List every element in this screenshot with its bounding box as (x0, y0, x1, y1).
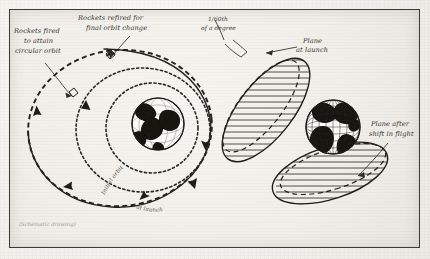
left-orbit-diagram (20, 36, 219, 215)
label-plane-at-launch-line1: Plane (302, 37, 322, 45)
label-plane-after-shift-line1: Plane after (370, 120, 410, 128)
label-rockets-fired-line2: to attain (24, 37, 53, 45)
transfer-orbit-path (20, 41, 219, 215)
label-plane-after-shift-line2: shift in flight (369, 130, 414, 138)
label-rockets-fired-line1: Rockets fired (13, 27, 60, 35)
diagram-artwork: Rockets fired to attain circular orbit R… (0, 0, 430, 259)
label-rockets-refired-line1: Rockets refired for (77, 14, 144, 22)
label-rockets-refired: Rockets refired for final orbit change (77, 14, 147, 32)
label-degree-line2: of a degree (201, 25, 236, 32)
earth-globe-right (306, 100, 360, 158)
figure-scan: Rockets fired to attain circular orbit R… (0, 0, 430, 259)
label-rockets-fired-line3: circular orbit (15, 47, 61, 55)
label-rockets-refired-line2: final orbit change (85, 24, 147, 32)
lead-arrow-plane-at-launch (266, 50, 273, 56)
lead-line-plane-after-shift (358, 143, 388, 176)
label-orbit-curve-2: at launch (136, 204, 164, 213)
label-degree-line1: 1/60th (208, 16, 228, 22)
label-orbit-curve-2-text: at launch (136, 204, 164, 213)
degree-wedge-marker (225, 40, 247, 57)
label-plane-at-launch: Plane at launch (296, 37, 328, 54)
label-plane-after-shift: Plane after shift in flight (369, 120, 414, 138)
label-plane-at-launch-line2: at launch (296, 46, 328, 54)
label-rockets-fired: Rockets fired to attain circular orbit (13, 27, 61, 55)
earth-globe-left (131, 98, 184, 155)
figure-caption: (Schematic drawing) (19, 221, 76, 228)
label-degree: 1/60th of a degree (201, 16, 236, 32)
